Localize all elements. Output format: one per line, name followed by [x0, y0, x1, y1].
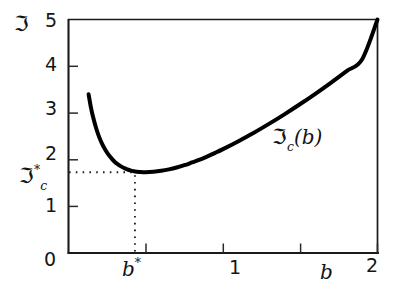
- y-critical-subscript: c: [40, 178, 47, 193]
- y-tick-label-3: 3: [45, 99, 57, 118]
- y-critical-base: ℑ: [19, 164, 34, 188]
- y-tick-label-1: 1: [45, 196, 57, 215]
- y-axis-ticks: [69, 66, 79, 206]
- x-tick-label-2: 2: [366, 256, 378, 275]
- curve-Im-c-of-b: [89, 20, 378, 173]
- critical-guides: [69, 172, 135, 252]
- y-axis-label: ℑ: [14, 14, 29, 35]
- axis-frame: [68, 19, 380, 254]
- x-axis-ticks: [146, 244, 378, 254]
- y-tick-label-2: 2: [45, 144, 57, 163]
- curve-label-argument: (b): [294, 125, 322, 149]
- curve-label-base: ℑ: [272, 125, 287, 149]
- y-critical-value-label: ℑ*c: [19, 165, 47, 190]
- x-critical-base: b: [122, 257, 135, 281]
- y-critical-superscript: *: [34, 162, 40, 177]
- y-tick-label-5: 5: [45, 11, 57, 30]
- x-axis-label: b: [320, 262, 333, 282]
- y-tick-label-4: 4: [45, 55, 57, 74]
- x-critical-value-label: b*: [122, 258, 141, 279]
- x-tick-label-1: 1: [229, 258, 241, 277]
- y-tick-label-0: 0: [44, 250, 56, 269]
- figure-container: ℑ 5 4 3 2 1 0 ℑ*c 1 2 b* b ℑc(b): [0, 0, 397, 299]
- x-critical-superscript: *: [135, 255, 141, 270]
- curve-label-subscript: c: [287, 139, 294, 154]
- curve-label-annotation: ℑc(b): [272, 127, 322, 151]
- plot-canvas: [0, 0, 397, 299]
